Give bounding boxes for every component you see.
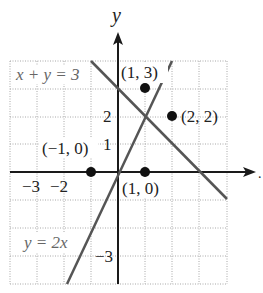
coordinate-plane: y . −3 −2 2 1 −3 x + y = 3 y = 2x (1, 3)… bbox=[0, 0, 263, 293]
label-point-1-3: (1, 3) bbox=[121, 63, 158, 82]
point-1-3 bbox=[140, 83, 150, 93]
y-axis-label: y bbox=[110, 4, 121, 27]
point-1-0 bbox=[140, 167, 150, 177]
label-point-neg1-0: (−1, 0) bbox=[42, 139, 88, 158]
tick-y-2: 2 bbox=[103, 107, 112, 126]
tick-y-neg3: −3 bbox=[95, 247, 113, 266]
tick-x-neg3: −3 bbox=[22, 177, 40, 196]
label-point-1-0: (1, 0) bbox=[122, 179, 159, 198]
tick-x-neg2: −2 bbox=[50, 177, 68, 196]
tick-y-1: 1 bbox=[103, 135, 112, 154]
label-x-plus-y-eq-3: x + y = 3 bbox=[15, 65, 80, 84]
x-axis-label: . bbox=[258, 166, 262, 181]
point-2-2 bbox=[167, 111, 177, 121]
label-y-eq-2x: y = 2x bbox=[22, 233, 68, 252]
label-point-2-2: (2, 2) bbox=[181, 107, 218, 126]
point-neg1-0 bbox=[86, 167, 96, 177]
